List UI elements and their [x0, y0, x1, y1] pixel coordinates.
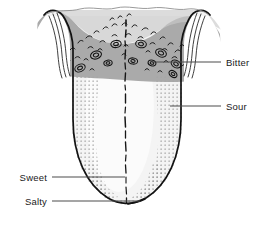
tongue-taste-map-diagram: Bitter Sour Sweet Salty: [0, 0, 273, 227]
label-bitter: Bitter: [226, 57, 249, 68]
label-salty: Salty: [25, 196, 47, 207]
label-sour: Sour: [226, 101, 247, 112]
label-sweet: Sweet: [20, 172, 48, 183]
figure-canvas: Bitter Sour Sweet Salty: [0, 0, 273, 227]
